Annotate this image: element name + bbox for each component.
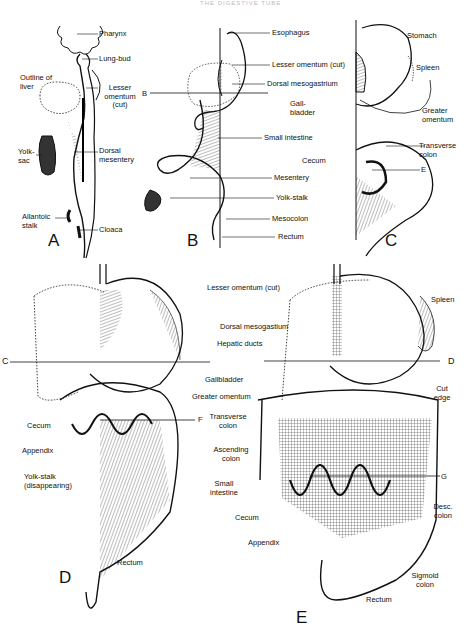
anatomy-figure: THE DIGESTIVE TUBE (0, 0, 471, 636)
label-e-sigmoid-colon: Sigmoid colon (405, 572, 445, 589)
label-e-dorsal-mesogastium: Dorsal mesogastium (220, 323, 288, 332)
label-d-rectum: Rectum (117, 559, 143, 568)
label-e-desc-colon: Desc. colon (430, 503, 456, 520)
label-b-cecum: Cecum (302, 157, 326, 166)
label-a-pharynx: Pharynx (99, 30, 127, 39)
label-e-hepatic-ducts: Hepatic ducts (217, 340, 262, 349)
label-e-ascending-colon: Ascending colon (210, 446, 252, 463)
label-e-appendix: Appendix (248, 539, 279, 548)
label-b-mesentery: Mesentery (274, 174, 309, 183)
panel-c-drawing (356, 20, 433, 256)
label-b-lesser-omentum: Lesser omentum (cut) (272, 61, 345, 70)
label-b-mesocolon: Mesocolon (272, 215, 308, 224)
section-mark-c: C (2, 357, 9, 366)
label-e-rectum: Rectum (366, 596, 392, 605)
panel-letter-b: B (187, 231, 198, 251)
label-e-greater-omentum: Greater omentum (192, 393, 251, 402)
panel-e-drawing (258, 264, 440, 600)
label-a-outline-liver: Outline of liver (20, 74, 54, 91)
label-b-esophagus: Esophagus (272, 29, 310, 38)
label-a-dorsal-mesentery: Dorsal mesentery (99, 147, 139, 164)
label-e-lesser-omentum: Lesser omentum (cut) (207, 284, 280, 293)
section-mark-g: G (441, 473, 447, 482)
panel-d-drawing (10, 264, 210, 608)
label-a-lung-bud: Lung-bud (99, 55, 131, 64)
section-mark-e: E (421, 166, 426, 175)
label-e-small-intestine: Small intestine (206, 480, 242, 497)
figure-drawing (0, 0, 471, 636)
label-d-cecum: Cecum (27, 422, 51, 431)
label-e-cecum: Cecum (235, 514, 259, 523)
panel-letter-e: E (296, 608, 307, 628)
label-a-allantoic-stalk: Allantoic stalk (22, 213, 56, 230)
label-b-rectum: Rectum (278, 233, 304, 242)
label-a-lesser-omentum: Lesser omentum (cut) (98, 84, 142, 110)
label-b-small-intestine: Small intestine (264, 134, 313, 143)
panel-letter-d: D (59, 568, 71, 588)
section-mark-d: D (448, 357, 455, 366)
label-a-cloaca: Cloaca (99, 226, 122, 235)
label-c-greater-omentum: Greater omentum (422, 107, 462, 124)
label-a-yolk-sac: Yolk-sac (18, 148, 40, 165)
label-e-cut-edge: Cut edge (429, 385, 455, 402)
label-b-yolk-stalk: Yolk-stalk (276, 194, 308, 203)
label-d-appendix: Appendix (22, 447, 53, 456)
section-mark-f: F (198, 416, 203, 425)
panel-letter-a: A (48, 231, 59, 251)
section-mark-b: B (142, 90, 147, 99)
label-c-stomach: Stomach (407, 32, 437, 41)
label-d-yolk-stalk: Yolk-stalk (disappearing) (24, 473, 80, 490)
panel-letter-c: C (385, 231, 397, 251)
label-b-dorsal-mesogastrium: Dorsal mesogastrium (267, 80, 338, 89)
label-c-spleen: Spleen (416, 64, 439, 73)
label-c-transverse-colon: Transverse colon (419, 142, 459, 159)
label-b-gall-bladder: Gall-bladder (290, 100, 316, 117)
label-e-spleen: Spleen (431, 296, 454, 305)
label-e-transverse-colon: Transverse colon (206, 413, 250, 430)
label-e-gallbladder: Gallbladder (205, 376, 243, 385)
panel-b-drawing (145, 28, 275, 248)
